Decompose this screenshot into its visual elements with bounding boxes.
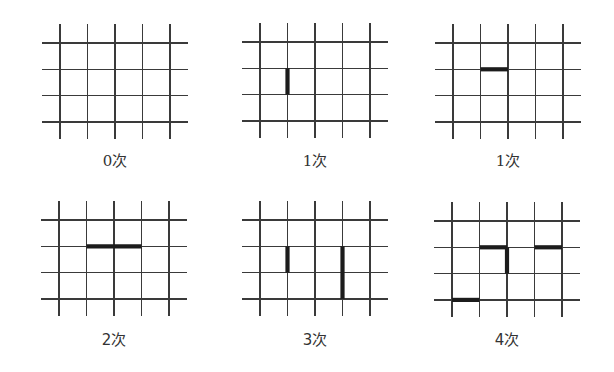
count-unit: 次 [505,152,520,170]
grid-panel-4 [41,201,187,316]
grid-panel-5 [242,201,388,316]
count-unit: 次 [312,152,327,170]
count-unit: 次 [111,331,126,349]
grid-panel-6 [434,202,580,317]
panel-label: 1次 [255,152,375,170]
count-number: 1 [303,152,313,170]
count-unit: 次 [504,331,519,349]
grid-panel-3 [435,24,581,139]
panel-label: 4次 [447,331,567,349]
count-number: 4 [495,331,505,349]
panel-label: 0次 [55,152,175,170]
count-number: 3 [303,331,313,349]
count-unit: 次 [112,152,127,170]
count-unit: 次 [312,331,327,349]
panel-label: 2次 [54,331,174,349]
grid-figure [0,0,614,372]
count-number: 0 [103,152,113,170]
count-number: 1 [496,152,506,170]
grid-panel-1 [42,24,188,139]
count-number: 2 [102,331,112,349]
grid-panel-2 [242,23,388,138]
panel-label: 3次 [255,331,375,349]
panel-label: 1次 [448,152,568,170]
